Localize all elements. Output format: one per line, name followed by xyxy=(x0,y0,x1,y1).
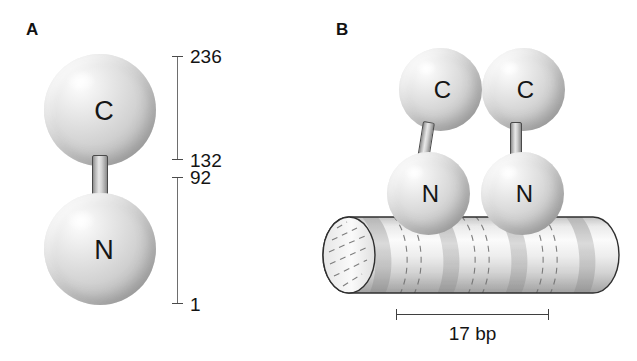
panel-a: A C N 236 132 92 1 xyxy=(0,0,320,361)
scale-label-1: 1 xyxy=(190,295,201,314)
panel-b-monomer-left-c-label: C xyxy=(434,78,451,102)
panel-a-c-domain-label: C xyxy=(94,98,114,125)
dna-footprint-bracket xyxy=(396,314,549,315)
panel-b-monomer-right-n-label: N xyxy=(516,182,533,206)
panel-a-n-domain-label: N xyxy=(94,237,114,264)
panel-b-label: B xyxy=(336,21,348,38)
scalebar-c-domain xyxy=(177,56,178,160)
panel-b-monomer-right-c-sphere: C xyxy=(482,48,565,131)
dna-duplex-graphic xyxy=(323,214,619,297)
dna-duplex xyxy=(323,214,619,297)
scale-label-236: 236 xyxy=(190,47,222,66)
panel-b-monomer-left-c-sphere: C xyxy=(399,48,482,131)
panel-b-monomer-right-c-label: C xyxy=(517,78,534,102)
dna-footprint-label: 17 bp xyxy=(396,324,549,343)
panel-b-monomer-left-n-sphere: N xyxy=(387,152,470,235)
panel-a-label: A xyxy=(26,21,38,38)
panel-b: B xyxy=(320,0,637,361)
scale-label-92: 92 xyxy=(190,168,211,187)
panel-a-c-domain-sphere: C xyxy=(44,54,156,166)
figure-container: A C N 236 132 92 1 B xyxy=(0,0,637,361)
panel-b-monomer-right-n-sphere: N xyxy=(481,152,564,235)
scalebar-n-domain xyxy=(177,177,178,304)
panel-a-n-domain-sphere: N xyxy=(44,193,156,305)
panel-b-monomer-left-n-label: N xyxy=(422,182,439,206)
